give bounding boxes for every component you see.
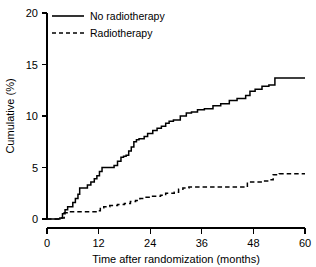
x-axis-tick-labels: 0 12 24 36 48 60 (44, 237, 311, 249)
x-tick-label-60: 60 (299, 237, 311, 249)
kaplan-meier-figure: 0 5 10 15 20 0 12 24 36 48 60 Time after… (0, 0, 316, 267)
y-tick-label-15: 15 (26, 59, 38, 71)
x-tick-label-36: 36 (196, 237, 208, 249)
legend-label-no-radiotherapy: No radiotherapy (90, 10, 165, 22)
x-axis-title: Time after randomization (months) (92, 253, 260, 265)
y-tick-label-10: 10 (26, 110, 38, 122)
x-tick-label-0: 0 (44, 237, 50, 249)
chart-canvas: 0 5 10 15 20 0 12 24 36 48 60 Time after… (0, 0, 316, 267)
x-tick-label-48: 48 (247, 237, 259, 249)
x-axis-ticks (47, 228, 305, 234)
x-tick-label-24: 24 (144, 237, 156, 249)
y-tick-label-0: 0 (32, 213, 38, 225)
x-tick-label-12: 12 (92, 237, 104, 249)
series-line-radiotherapy (47, 174, 305, 219)
legend-label-radiotherapy: Radiotherapy (90, 27, 153, 39)
series-line-no-radiotherapy (47, 78, 305, 219)
chart-legend: No radiotherapy Radiotherapy (52, 10, 165, 39)
y-tick-label-5: 5 (32, 162, 38, 174)
y-tick-label-20: 20 (26, 7, 38, 19)
y-axis-tick-labels: 0 5 10 15 20 (26, 7, 38, 225)
y-axis-title: Cumulative (%) (4, 78, 16, 153)
y-axis-ticks (42, 13, 47, 219)
